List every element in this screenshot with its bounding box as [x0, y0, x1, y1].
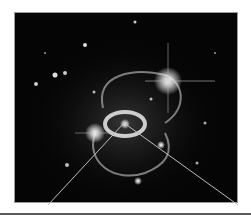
star-field: [15, 13, 238, 203]
astronomy-photo: [14, 12, 238, 203]
divider-rule: [0, 213, 251, 215]
